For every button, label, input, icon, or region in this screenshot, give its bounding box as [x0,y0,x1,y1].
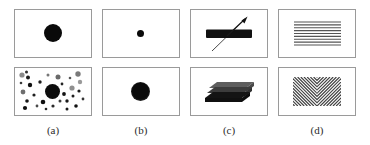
figure-column-b [102,9,180,119]
panel-b-top [102,9,180,58]
panel-b-bottom [102,67,180,116]
panel-d-bottom-content [279,68,355,115]
panel-d-top-content [279,10,355,57]
figure-column-a [14,9,92,119]
panel-c-top [190,9,268,58]
panel-a-bottom-content [15,68,91,115]
bar-with-arrow-svg [191,10,267,57]
arrow-head-icon [242,17,248,24]
panel-a-bottom [14,67,92,116]
label-column-a: (a) [14,123,92,137]
horizontal-line-texture-svg [294,21,341,46]
panel-b-bottom-content [103,68,179,115]
large-dot [44,24,62,42]
label-column-b: (b) [102,123,180,137]
panel-a-top-content [15,10,91,57]
figure-column-c [190,9,268,119]
large-blurred-dot [131,82,150,101]
slab-bottom-edge [205,98,242,102]
small-sharp-dot [137,30,144,37]
label-column-c: (c) [190,123,268,137]
panel-d-bottom [278,67,356,116]
label-column-d: (d) [278,123,356,137]
stacked-slabs-svg [191,68,267,115]
panel-grid [14,9,358,119]
dot-field-svg [15,68,91,115]
panel-d-top [278,9,356,58]
figure-column-d [278,9,356,119]
panel-c-top-content [191,10,267,57]
figure-root: (a) (b) (c) (d) [0,0,370,145]
panel-c-bottom [190,67,268,116]
panel-c-bottom-content [191,68,267,115]
panel-b-top-content [103,10,179,57]
chevron-line-texture-svg [293,77,341,106]
column-labels: (a) (b) (c) (d) [14,123,358,141]
panel-a-top [14,9,92,58]
